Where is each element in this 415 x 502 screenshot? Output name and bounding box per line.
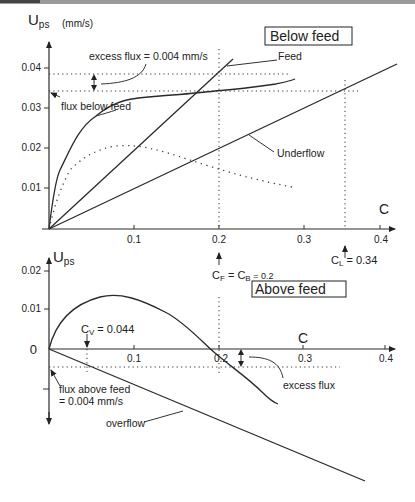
- top-y-tick: 0.04: [22, 62, 42, 73]
- bottom-x-label: C: [298, 330, 308, 346]
- bottom-y-tick: 0.02: [22, 265, 42, 276]
- flux-above-feed-label-2: = 0.004 mm/s: [59, 395, 123, 407]
- bottom-y-tick: 0.01: [22, 303, 42, 314]
- overflow-label: overflow: [106, 417, 146, 429]
- cl-label: CL = 0.34: [331, 254, 377, 268]
- excess-flux-leader: [101, 64, 146, 84]
- bottom-x-tick: 0.4: [379, 353, 393, 364]
- flux-diagram: 0.04 0.03 0.02 0.01 0.1 0.2 0.3 0.4 Ups …: [0, 0, 415, 502]
- overflow-leader: [144, 411, 183, 422]
- batch-flux-curve: [49, 146, 292, 229]
- feed-line: [49, 59, 233, 229]
- top-y-label: Ups: [28, 11, 49, 30]
- above-feed-title: Above feed: [255, 281, 326, 297]
- top-x-tick: 0.1: [127, 234, 141, 245]
- bottom-y-label: Ups: [53, 248, 74, 267]
- bottom-x-tick: 0.1: [127, 353, 141, 364]
- feed-label: Feed: [278, 50, 302, 62]
- top-x-label: C: [379, 201, 389, 217]
- bottom-y-tick: 0: [30, 342, 37, 357]
- top-y-units: (mm/s): [62, 18, 93, 29]
- excess-flux-label: excess flux = 0.004 mm/s: [89, 50, 208, 62]
- excess-flux-bottom-label: excess flux: [283, 379, 336, 391]
- top-x-tick: 0.2: [212, 234, 226, 245]
- top-y-tick: 0.01: [22, 182, 42, 193]
- feed-leader: [227, 60, 277, 66]
- top-chart: 0.04 0.03 0.02 0.01 0.1 0.2 0.3 0.4 Ups …: [22, 11, 397, 283]
- underflow-leader: [249, 135, 274, 152]
- top-x-tick: 0.3: [297, 234, 311, 245]
- top-y-tick: 0.03: [22, 102, 42, 113]
- overflow-line: [49, 349, 365, 481]
- bottom-chart: 0.02 0.01 0 0.1 0.2 0.3 0.4 Ups C CV = 0…: [22, 248, 395, 481]
- underflow-label: Underflow: [277, 147, 325, 159]
- flux-below-feed-label: flux below feed: [61, 100, 131, 112]
- below-feed-title: Below feed: [270, 28, 339, 44]
- top-x-tick: 0.4: [374, 234, 388, 245]
- cv-label: CV = 0.044: [81, 323, 134, 337]
- top-y-tick: 0.02: [22, 142, 42, 153]
- bottom-x-tick: 0.3: [298, 353, 312, 364]
- flux-above-feed-label-1: flux above feed: [59, 383, 130, 395]
